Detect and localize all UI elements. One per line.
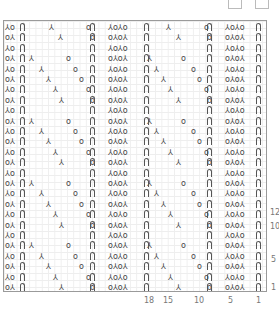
yarn-over-symbol: o: [181, 179, 186, 189]
twisted-stitch-icon: [90, 117, 95, 125]
twisted-stitch-icon: [207, 221, 212, 229]
twisted-stitch-icon: [256, 189, 261, 197]
decrease-symbol: ⅄: [46, 262, 51, 272]
twisted-stitch-icon: [20, 44, 25, 52]
decrease-symbol: ⅄: [46, 137, 51, 147]
right-symbols: ⅄o⅄o: [225, 23, 245, 33]
twisted-stitch-icon: [207, 148, 212, 156]
twisted-stitch-icon: [207, 241, 212, 249]
right-symbols: ⅄o⅄o: [225, 148, 245, 158]
twisted-stitch-icon: [20, 158, 25, 166]
chart-row: o⅄o⅄o⅄o⅄o⅄⅄o⅄o: [4, 75, 266, 85]
decrease-symbol: ⅄: [176, 221, 181, 231]
yarn-over-symbol: o: [191, 65, 196, 75]
decrease-symbol: ⅄: [176, 283, 181, 293]
twisted-stitch-icon: [256, 54, 261, 62]
toolbar-box-left[interactable]: [228, 0, 242, 9]
twisted-stitch-icon: [207, 189, 212, 197]
twisted-stitch-icon: [144, 231, 149, 239]
twisted-stitch-icon: [90, 283, 95, 291]
right-symbols: ⅄o⅄o: [225, 65, 245, 75]
twisted-stitch-icon: [90, 65, 95, 73]
decrease-symbol: ⅄: [154, 127, 159, 137]
center-symbols: ⅄o⅄o: [108, 127, 128, 137]
twisted-stitch-icon: [90, 169, 95, 177]
decrease-symbol: ⅄: [29, 179, 34, 189]
twisted-stitch-icon: [207, 75, 212, 83]
yarn-over-symbol: o: [79, 262, 84, 272]
center-symbols: o⅄o⅄: [108, 200, 128, 210]
twisted-stitch-icon: [90, 54, 95, 62]
twisted-stitch-icon: [256, 158, 261, 166]
col-label-18: 18: [144, 296, 154, 305]
twisted-stitch-icon: [256, 273, 261, 281]
twisted-stitch-icon: [256, 85, 261, 93]
center-symbols: o⅄o⅄: [108, 283, 128, 293]
edge-symbols: o⅄: [5, 241, 15, 251]
right-symbols: o⅄o⅄: [225, 117, 245, 127]
decrease-symbol: ⅄: [168, 210, 173, 220]
twisted-stitch-icon: [20, 127, 25, 135]
twisted-stitch-icon: [144, 283, 149, 291]
edge-symbols: ⅄o: [5, 44, 15, 54]
edge-symbols: ⅄o: [5, 231, 15, 241]
chart-row: ⅄o⅄o⅄o⅄o⅄o: [4, 231, 266, 241]
twisted-stitch-icon: [144, 137, 149, 145]
twisted-stitch-icon: [256, 262, 261, 270]
chart-row: ⅄o⅄o⅄o⅄o⅄o⅄o⅄o: [4, 273, 266, 283]
twisted-stitch-icon: [256, 106, 261, 114]
twisted-stitch-icon: [144, 127, 149, 135]
twisted-stitch-icon: [20, 106, 25, 114]
center-symbols: o⅄o⅄: [108, 137, 128, 147]
decrease-symbol: ⅄: [53, 273, 58, 283]
chart-row: ⅄o⅄o⅄o⅄o⅄o⅄o⅄o: [4, 210, 266, 220]
right-symbols: ⅄o⅄o: [225, 85, 245, 95]
row-label-10: 10: [270, 222, 279, 231]
row-label-1: 1: [271, 283, 276, 292]
twisted-stitch-icon: [20, 210, 25, 218]
edge-symbols: o⅄: [5, 179, 15, 189]
yarn-over-symbol: o: [79, 137, 84, 147]
twisted-stitch-icon: [207, 200, 212, 208]
chart-row: ⅄o⅄o⅄o⅄o⅄o⅄o⅄o: [4, 189, 266, 199]
decrease-symbol: ⅄: [39, 127, 44, 137]
twisted-stitch-icon: [144, 23, 149, 31]
twisted-stitch-icon: [144, 241, 149, 249]
twisted-stitch-icon: [144, 262, 149, 270]
decrease-symbol: ⅄: [176, 96, 181, 106]
center-symbols: ⅄o⅄o: [108, 65, 128, 75]
twisted-stitch-icon: [256, 137, 261, 145]
decrease-symbol: ⅄: [53, 85, 58, 95]
yarn-over-symbol: o: [197, 200, 202, 210]
decrease-symbol: ⅄: [166, 23, 171, 33]
yarn-over-symbol: o: [181, 117, 186, 127]
twisted-stitch-icon: [144, 273, 149, 281]
twisted-stitch-icon: [144, 158, 149, 166]
chart-row: o⅄o⅄o⅄o⅄o⅄⅄o⅄o: [4, 262, 266, 272]
center-symbols: ⅄o⅄o: [108, 85, 128, 95]
right-symbols: ⅄o⅄o: [225, 44, 245, 54]
edge-symbols: ⅄o: [5, 189, 15, 199]
decrease-symbol: ⅄: [168, 148, 173, 158]
twisted-stitch-icon: [207, 106, 212, 114]
decrease-symbol: ⅄: [59, 221, 64, 231]
toolbar-box-right[interactable]: [255, 0, 269, 9]
center-symbols: o⅄o⅄: [108, 75, 128, 85]
right-symbols: ⅄o⅄o: [225, 252, 245, 262]
chart-row: ⅄o⅄o⅄o⅄o⅄o: [4, 44, 266, 54]
twisted-stitch-icon: [20, 231, 25, 239]
right-symbols: o⅄o⅄: [225, 137, 245, 147]
twisted-stitch-icon: [144, 33, 149, 41]
twisted-stitch-icon: [144, 169, 149, 177]
twisted-stitch-icon: [90, 231, 95, 239]
center-symbols: o⅄o⅄: [108, 179, 128, 189]
twisted-stitch-icon: [144, 106, 149, 114]
right-symbols: o⅄o⅄: [225, 75, 245, 85]
center-symbols: ⅄o⅄o: [108, 44, 128, 54]
decrease-symbol: ⅄: [176, 158, 181, 168]
col-label-5: 5: [228, 296, 233, 305]
twisted-stitch-icon: [256, 231, 261, 239]
twisted-stitch-icon: [20, 65, 25, 73]
twisted-stitch-icon: [20, 33, 25, 41]
edge-symbols: ⅄o: [5, 106, 15, 116]
